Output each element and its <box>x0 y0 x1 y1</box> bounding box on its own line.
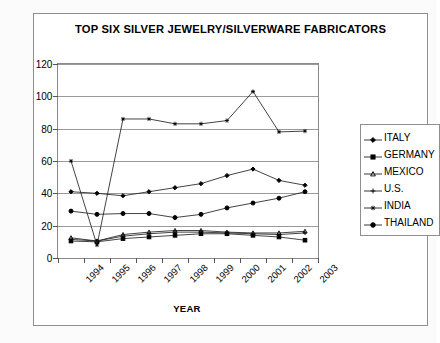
legend-item-label: THAILAND <box>384 217 433 228</box>
series-layer <box>58 64 318 258</box>
legend-item-label: INDIA <box>384 200 411 211</box>
x-axis-tick-label: 2003 <box>317 262 340 285</box>
x-axis-tick-label: 2001 <box>265 262 288 285</box>
diamond-icon <box>363 132 383 144</box>
series-line <box>71 234 305 242</box>
x-axis-tick-label: 1994 <box>83 262 106 285</box>
x-axis-tick-label: 1998 <box>187 262 210 285</box>
x-axis-tick <box>162 258 163 263</box>
legend-item-label: ITALY <box>384 132 410 143</box>
x-axis-tick <box>292 258 293 263</box>
series-line <box>71 192 305 218</box>
legend-item-thailand[interactable]: THAILAND <box>363 214 436 231</box>
x-axis-tick <box>84 258 85 263</box>
x-axis-tick-label: 1997 <box>161 262 184 285</box>
y-axis-tick-label: 100 <box>36 91 56 102</box>
x-axis-tick-label: 2002 <box>291 262 314 285</box>
legend-item-label: MEXICO <box>384 166 423 177</box>
square-icon <box>363 149 383 161</box>
y-axis-tick-label: 40 <box>41 188 55 199</box>
x-axis-tick <box>58 258 59 263</box>
circle-icon <box>363 217 383 229</box>
x-axis-tick-label: 1999 <box>213 262 236 285</box>
legend-item-u-s-[interactable]: U.S. <box>363 180 436 197</box>
x-axis-title: YEAR <box>57 303 317 314</box>
plot-area: 0204060801001201994199519961997199819992… <box>57 63 319 259</box>
chart-legend: ITALYGERMANYMEXICOU.S.INDIATHAILAND <box>360 124 440 236</box>
x-axis-tick-label: 1995 <box>109 262 132 285</box>
x-axis-tick <box>188 258 189 263</box>
legend-item-label: GERMANY <box>384 149 435 160</box>
cross-icon <box>363 183 383 195</box>
y-axis-tick-label: 60 <box>41 156 55 167</box>
y-axis-tick-label: 0 <box>47 253 56 264</box>
series-line <box>71 169 305 196</box>
x-axis-tick <box>214 258 215 263</box>
x-axis-tick <box>266 258 267 263</box>
x-axis-tick <box>318 258 319 263</box>
legend-item-india[interactable]: INDIA <box>363 197 436 214</box>
x-axis-tick <box>110 258 111 263</box>
legend-item-germany[interactable]: GERMANY <box>363 146 436 163</box>
series-italy <box>69 167 307 198</box>
legend-item-italy[interactable]: ITALY <box>363 129 436 146</box>
y-axis-tick-label: 120 <box>36 59 56 70</box>
series-germany <box>69 232 307 244</box>
x-axis-tick <box>136 258 137 263</box>
triangle-icon <box>363 166 383 178</box>
x-axis-tick-label: 1996 <box>135 262 158 285</box>
x-axis-tick-label: 2000 <box>239 262 262 285</box>
y-axis-tick-label: 80 <box>41 123 55 134</box>
y-axis-tick-label: 20 <box>41 220 55 231</box>
star-icon <box>363 200 383 212</box>
series-line <box>71 91 305 245</box>
x-axis-tick <box>240 258 241 263</box>
legend-item-label: U.S. <box>384 183 403 194</box>
legend-item-mexico[interactable]: MEXICO <box>363 163 436 180</box>
chart-title: TOP SIX SILVER JEWELRY/SILVERWARE FABRIC… <box>34 23 427 35</box>
series-india <box>69 89 307 247</box>
chart-card: TOP SIX SILVER JEWELRY/SILVERWARE FABRIC… <box>33 13 428 326</box>
